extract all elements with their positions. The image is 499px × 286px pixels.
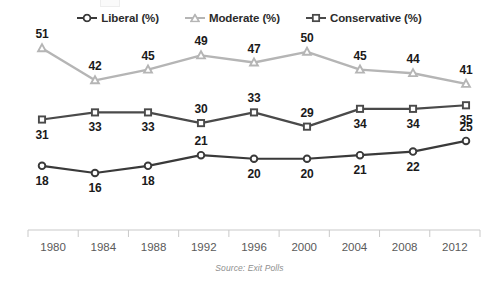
- data-point-marker: [410, 148, 417, 155]
- data-label: 50: [301, 31, 314, 45]
- x-tick-label: 2012: [442, 241, 468, 253]
- data-point-marker: [356, 66, 364, 73]
- chart-legend: Liberal (%) Moderate (%) Conservative (%…: [0, 12, 499, 24]
- data-point-marker: [92, 170, 99, 177]
- data-point-marker: [409, 69, 417, 76]
- legend-item-moderate[interactable]: Moderate (%): [185, 12, 280, 24]
- x-tick-label: 2004: [342, 241, 368, 253]
- data-label: 20: [301, 167, 314, 181]
- data-point-marker: [463, 102, 469, 108]
- data-point-marker: [410, 106, 416, 112]
- data-label: 42: [89, 59, 102, 73]
- x-tick-label: 2000: [291, 241, 317, 253]
- data-label: 45: [354, 49, 367, 63]
- source-note: Source: Exit Polls: [0, 263, 499, 273]
- data-point-marker: [198, 152, 205, 159]
- data-label: 18: [142, 174, 155, 188]
- data-label: 18: [36, 174, 49, 188]
- x-tick-label: 1992: [191, 241, 217, 253]
- circle-marker-icon: [77, 13, 97, 24]
- legend-label-liberal: Liberal (%): [101, 12, 159, 24]
- data-point-marker: [145, 163, 152, 170]
- data-label: 21: [195, 134, 208, 148]
- data-label: 33: [89, 120, 102, 134]
- x-tick-label: 2008: [392, 241, 418, 253]
- square-marker-icon: [306, 13, 326, 24]
- legend-item-liberal[interactable]: Liberal (%): [77, 12, 159, 24]
- triangle-marker-icon: [185, 13, 205, 24]
- data-point-marker: [462, 80, 470, 87]
- data-label: 34: [354, 117, 367, 131]
- data-label: 16: [89, 181, 102, 195]
- data-label: 51: [36, 27, 49, 41]
- data-point-marker: [304, 155, 311, 162]
- data-point-marker: [198, 120, 204, 126]
- legend-label-conservative: Conservative (%): [330, 12, 422, 24]
- data-point-marker: [144, 66, 152, 73]
- x-axis: [28, 228, 480, 240]
- data-point-marker: [303, 48, 311, 55]
- x-tick-label: 1996: [241, 241, 267, 253]
- data-point-marker: [463, 138, 470, 145]
- data-point-marker: [92, 109, 98, 115]
- data-label: 21: [354, 163, 367, 177]
- data-point-marker: [39, 163, 46, 170]
- data-label: 45: [142, 49, 155, 63]
- legend-label-moderate: Moderate (%): [209, 12, 280, 24]
- plot-area: 5142454947504544413133333033293434351816…: [28, 34, 480, 230]
- data-label: 33: [248, 91, 261, 105]
- data-point-marker: [39, 116, 45, 122]
- data-point-marker: [251, 155, 258, 162]
- data-label: 20: [248, 167, 261, 181]
- data-label: 22: [407, 160, 420, 174]
- top-edge-artifact: [100, 0, 120, 7]
- x-axis-tick-labels: 198019841988199219962000200420082012: [28, 241, 480, 259]
- data-label: 41: [460, 63, 473, 77]
- data-label: 44: [407, 52, 420, 66]
- data-label: 30: [195, 102, 208, 116]
- x-tick-label: 1980: [40, 241, 66, 253]
- data-label: 47: [248, 42, 261, 56]
- data-label: 31: [36, 128, 49, 142]
- data-label: 49: [195, 34, 208, 48]
- data-point-marker: [38, 44, 46, 51]
- x-tick-label: 1988: [141, 241, 167, 253]
- data-point-marker: [250, 58, 258, 65]
- data-label: 29: [301, 106, 314, 120]
- data-point-marker: [145, 109, 151, 115]
- data-point-marker: [357, 106, 363, 112]
- data-point-marker: [251, 109, 257, 115]
- x-tick-label: 1984: [91, 241, 117, 253]
- data-label: 34: [407, 117, 420, 131]
- data-label: 25: [460, 120, 473, 134]
- data-point-marker: [197, 51, 205, 58]
- data-label: 33: [142, 120, 155, 134]
- data-point-marker: [304, 124, 310, 130]
- axis-line-and-ticks: [28, 228, 480, 240]
- legend-item-conservative[interactable]: Conservative (%): [306, 12, 422, 24]
- chart-container: Liberal (%) Moderate (%) Conservative (%…: [0, 0, 499, 286]
- data-point-marker: [357, 152, 364, 159]
